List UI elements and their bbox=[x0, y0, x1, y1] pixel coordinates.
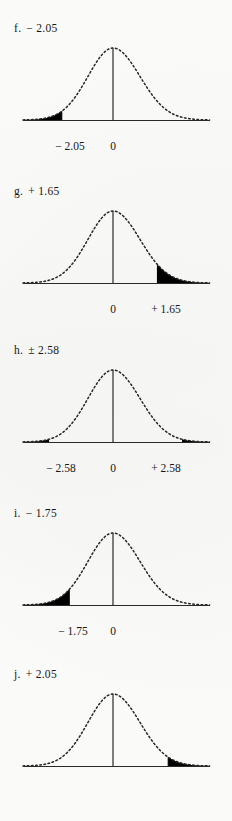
normal-curve-j bbox=[0, 686, 232, 781]
shaded-tail-g-0 bbox=[157, 265, 210, 283]
bell-curve-path-j bbox=[23, 694, 210, 766]
bell-curve-path-i bbox=[23, 533, 210, 605]
panel-z-value-f: − 2.05 bbox=[26, 22, 57, 34]
normal-curve-f bbox=[0, 40, 232, 135]
bell-curve-path-f bbox=[23, 48, 210, 120]
curve-area-g bbox=[0, 203, 232, 298]
axis-tick-labels-i: − 1.750 bbox=[0, 625, 232, 641]
panel-letter-i: i. bbox=[14, 507, 21, 519]
panel-label-f: f.− 2.05 bbox=[14, 22, 58, 34]
panel-letter-f: f. bbox=[14, 22, 21, 34]
bell-curve-path-g bbox=[23, 211, 210, 283]
axis-tick-label: + 2.58 bbox=[151, 462, 181, 474]
axis-tick-label: − 2.58 bbox=[46, 462, 76, 474]
normal-curve-h bbox=[0, 362, 232, 457]
axis-tick-label: + 1.65 bbox=[151, 303, 181, 315]
panel-label-i: i.− 1.75 bbox=[14, 507, 57, 519]
axis-tick-labels-h: − 2.580+ 2.58 bbox=[0, 462, 232, 478]
shaded-tail-f-0 bbox=[23, 111, 62, 120]
axis-tick-label: 0 bbox=[110, 625, 116, 637]
normal-curve-g bbox=[0, 203, 232, 298]
curve-area-h bbox=[0, 362, 232, 457]
panel-letter-h: h. bbox=[14, 344, 23, 356]
panel-letter-j: j. bbox=[14, 668, 21, 680]
axis-tick-label: 0 bbox=[110, 462, 116, 474]
bell-curve-path-h bbox=[23, 370, 210, 442]
panel-label-g: g.+ 1.65 bbox=[14, 185, 60, 197]
panel-z-value-g: + 1.65 bbox=[28, 185, 59, 197]
curve-area-f bbox=[0, 40, 232, 135]
axis-tick-label: 0 bbox=[110, 303, 116, 315]
panel-z-value-j: + 2.05 bbox=[26, 668, 57, 680]
axis-tick-labels-f: − 2.050 bbox=[0, 140, 232, 156]
panel-label-h: h.± 2.58 bbox=[14, 344, 59, 356]
shaded-tail-i-0 bbox=[23, 589, 69, 605]
panel-label-j: j.+ 2.05 bbox=[14, 668, 57, 680]
axis-tick-labels-g: 0+ 1.65 bbox=[0, 303, 232, 319]
normal-curve-i bbox=[0, 525, 232, 620]
panel-letter-g: g. bbox=[14, 185, 23, 197]
worksheet-page: f.− 2.05− 2.050g.+ 1.650+ 1.65h.± 2.58− … bbox=[0, 0, 232, 821]
axis-tick-label: 0 bbox=[110, 140, 116, 152]
curve-area-i bbox=[0, 525, 232, 620]
curve-area-j bbox=[0, 686, 232, 781]
axis-tick-label: − 2.05 bbox=[55, 140, 85, 152]
axis-tick-label: − 1.75 bbox=[58, 625, 88, 637]
panel-z-value-h: ± 2.58 bbox=[28, 344, 59, 356]
panel-z-value-i: − 1.75 bbox=[26, 507, 57, 519]
